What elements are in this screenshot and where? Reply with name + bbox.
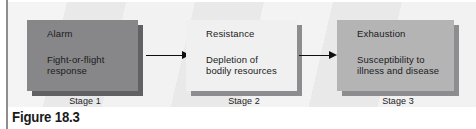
figure-caption: Figure 18.3 — [12, 108, 80, 125]
stage-resistance-desc-line-1: Depletion of — [206, 54, 291, 66]
stage-alarm-desc-line-2: response — [47, 65, 132, 77]
arrow-resistance-to-exhaustion-head — [329, 51, 337, 59]
stage-exhaustion-desc-line-1: Susceptibility to — [357, 54, 448, 66]
left-margin-rule — [6, 0, 8, 129]
stage-alarm: Alarm Fight-or-flight response — [27, 20, 143, 96]
stage-exhaustion: Exhaustion Susceptibility to illness and… — [337, 20, 459, 96]
stage-resistance: Resistance Depletion of bodily resources — [186, 20, 302, 96]
stage-alarm-title: Alarm — [47, 29, 132, 39]
stage-resistance-box: Resistance Depletion of bodily resources — [186, 20, 297, 91]
stage-exhaustion-label: Stage 3 — [337, 96, 459, 106]
stage-alarm-label: Stage 1 — [27, 96, 143, 106]
stage-alarm-description: Fight-or-flight response — [47, 54, 132, 77]
arrow-resistance-to-exhaustion — [299, 51, 339, 60]
figure-container: Alarm Fight-or-flight response Stage 1 R… — [0, 0, 476, 129]
stage-alarm-text: Alarm Fight-or-flight response — [47, 29, 132, 77]
stage-exhaustion-box: Exhaustion Susceptibility to illness and… — [337, 20, 454, 91]
stage-alarm-box: Alarm Fight-or-flight response — [27, 20, 138, 91]
stage-resistance-description: Depletion of bodily resources — [206, 54, 291, 77]
stage-exhaustion-description: Susceptibility to illness and disease — [357, 54, 448, 77]
stage-alarm-desc-line-1: Fight-or-flight — [47, 54, 132, 66]
stage-resistance-text: Resistance Depletion of bodily resources — [206, 29, 291, 77]
arrow-alarm-to-resistance — [146, 51, 190, 60]
stage-exhaustion-desc-line-2: illness and disease — [357, 65, 448, 77]
stage-exhaustion-text: Exhaustion Susceptibility to illness and… — [357, 29, 448, 77]
stage-resistance-desc-line-2: bodily resources — [206, 65, 291, 77]
arrow-alarm-to-resistance-line — [146, 55, 183, 56]
stage-exhaustion-title: Exhaustion — [357, 29, 448, 39]
stage-resistance-title: Resistance — [206, 29, 291, 39]
arrow-resistance-to-exhaustion-line — [299, 55, 330, 56]
stage-resistance-label: Stage 2 — [186, 96, 302, 106]
